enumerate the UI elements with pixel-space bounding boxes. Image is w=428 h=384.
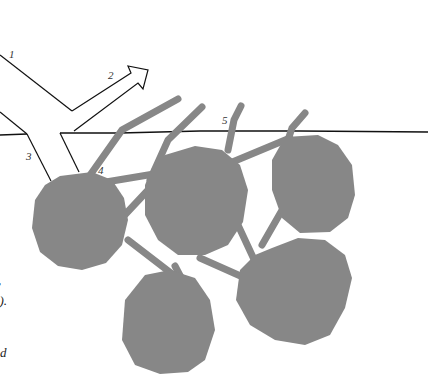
refracted-beam: [27, 133, 79, 181]
particles: [32, 135, 355, 374]
label-4: 4: [98, 164, 104, 176]
label-1: 1: [9, 48, 15, 60]
particle-1: [32, 172, 128, 270]
particle-3: [272, 135, 355, 233]
incident-beam: [0, 55, 72, 134]
label-5: 5: [222, 114, 228, 126]
label-3: 3: [25, 150, 32, 162]
label-2: 2: [108, 69, 114, 81]
particle-2: [145, 146, 248, 255]
caption-fragment-2: o).: [0, 293, 7, 309]
particle-5: [122, 270, 215, 374]
caption-fragment-1: ,: [0, 272, 1, 288]
interface-line: [0, 131, 428, 135]
diagram-canvas: 1 2 3 4 5: [0, 0, 428, 384]
caption-fragment-3: d: [0, 345, 7, 361]
